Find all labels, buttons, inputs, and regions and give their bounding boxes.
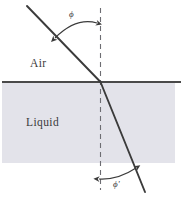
angle-of-incidence-label: ϕ — [69, 9, 74, 19]
angle-of-incidence-arc — [55, 22, 97, 38]
angle-of-refraction-arc — [99, 168, 136, 179]
air-label: Air — [30, 57, 47, 69]
figure-canvas: Air Liquid ϕ ϕ' — [0, 0, 185, 207]
liquid-label: Liquid — [26, 116, 59, 129]
incident-ray — [27, 6, 101, 82]
angle-of-refraction-label: ϕ' — [113, 179, 121, 189]
refraction-diagram: Air Liquid ϕ ϕ' — [0, 0, 185, 207]
